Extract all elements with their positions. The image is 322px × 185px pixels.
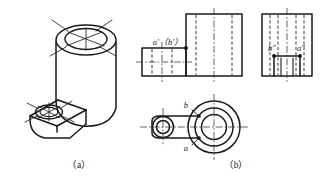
label-b-double-prime: b″ [268,43,276,53]
lower-arm [30,100,86,138]
top-view: b a [140,94,248,160]
side-point-marker-a [298,54,302,58]
front-view: a′（b′） [136,8,242,83]
label-a-double-prime: a″ [297,43,305,53]
label-a-prime-b-prime: a′（b′） [153,37,183,47]
figure-root: a′（b′） b″ a″ [0,0,322,185]
caption-a: （a） [67,159,91,170]
engineering-drawing-canvas: a′（b′） b″ a″ [0,0,322,185]
front-point-marker [184,46,188,50]
top-view-leader-b [192,110,199,116]
isometric-bracket [25,20,116,138]
side-point-marker-b [272,54,276,58]
label-a-point: a [184,143,188,153]
left-side-view: b″ a″ [262,8,312,83]
caption-b: （b） [224,159,249,170]
label-b-point: b [184,100,188,110]
